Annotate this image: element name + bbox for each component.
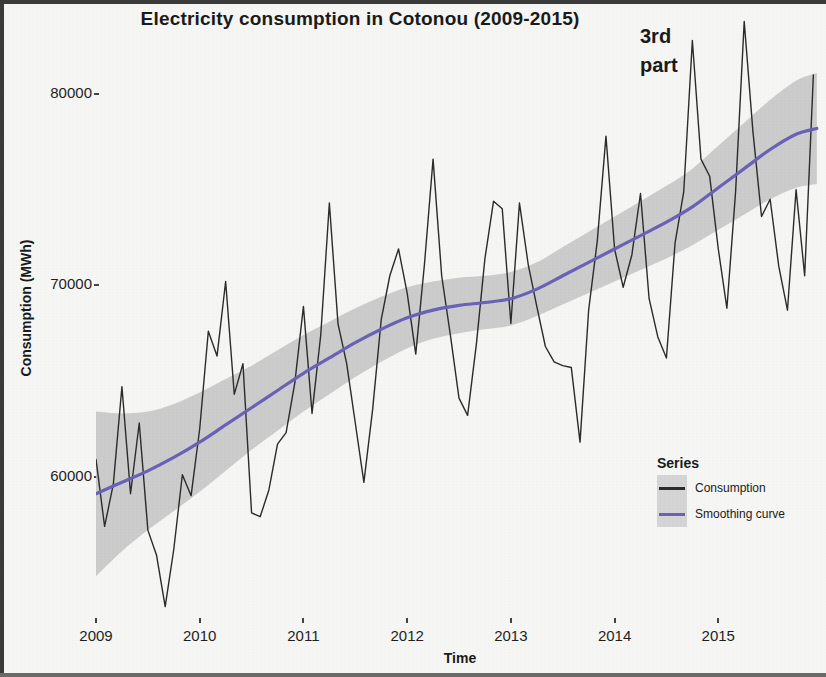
y-tick-label: 70000 [6, 275, 92, 292]
legend-item: Consumption [657, 475, 817, 501]
page-frame-left [0, 0, 4, 677]
plot-area [96, 8, 822, 620]
legend-title: Series [657, 455, 817, 471]
x-tick-label: 2013 [471, 627, 551, 644]
legend-items: ConsumptionSmoothing curve [657, 475, 817, 527]
y-axis-ticks: 600007000080000 [0, 0, 92, 677]
x-tick-label: 2015 [678, 627, 758, 644]
y-tick-label: 60000 [6, 467, 92, 484]
plot-svg [96, 8, 822, 620]
legend: Series ConsumptionSmoothing curve [657, 455, 817, 527]
page-frame-bottom [0, 673, 826, 677]
chart-page: Electricity consumption in Cotonou (2009… [0, 0, 826, 677]
x-axis-label: Time [400, 650, 520, 666]
y-tick-label: 80000 [6, 84, 92, 101]
legend-item-label: Smoothing curve [695, 507, 785, 521]
x-tick-label: 2009 [56, 627, 136, 644]
x-tick-label: 2014 [575, 627, 655, 644]
legend-key-swatch [657, 501, 687, 527]
legend-line-sample [659, 487, 685, 490]
legend-item-label: Consumption [695, 481, 766, 495]
x-tick-label: 2011 [263, 627, 343, 644]
x-tick-label: 2012 [367, 627, 447, 644]
x-tick-label: 2010 [160, 627, 240, 644]
legend-item: Smoothing curve [657, 501, 817, 527]
legend-line-sample [659, 513, 685, 516]
page-frame-top [0, 0, 826, 4]
legend-key-swatch [657, 475, 687, 501]
